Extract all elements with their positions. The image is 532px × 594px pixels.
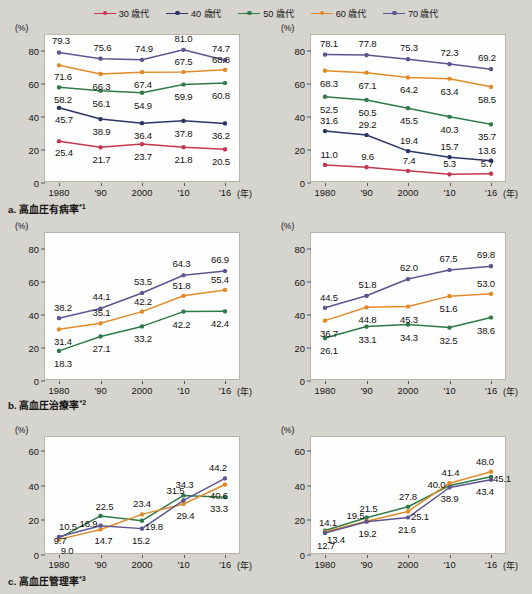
x-tickmark-c-right-2 bbox=[408, 555, 409, 558]
series-line-c-left-60歳代 bbox=[59, 485, 225, 540]
data-label-b-right: 51.6 bbox=[440, 303, 458, 314]
data-label-b-right: 26.1 bbox=[320, 345, 338, 356]
y-tick-a-right-20: 20 bbox=[283, 145, 305, 156]
series-point-a-left bbox=[223, 68, 227, 72]
data-label-a-right: 45.5 bbox=[400, 115, 418, 126]
series-point-b-right bbox=[323, 306, 327, 310]
series-point-a-right bbox=[323, 52, 327, 56]
series-point-c-left bbox=[140, 512, 144, 516]
x-tick-a-right-2: 2000 bbox=[398, 187, 419, 198]
legend-item-age50[interactable]: 50 歳代 bbox=[238, 6, 293, 20]
x-tickmark-a-left-3 bbox=[184, 183, 185, 186]
series-point-c-left bbox=[181, 502, 185, 506]
series-point-b-right bbox=[447, 294, 451, 298]
y-axis-unit-a-left: (%) bbox=[15, 23, 28, 33]
data-label-b-right: 67.5 bbox=[440, 253, 458, 264]
data-label-a-right: 15.7 bbox=[441, 141, 459, 152]
data-label-b-left: 66.9 bbox=[211, 253, 229, 264]
y-tick-a-left-0: 0 bbox=[17, 178, 39, 189]
x-tickmark-c-left-1 bbox=[101, 555, 102, 558]
series-point-a-left bbox=[181, 70, 185, 74]
legend-swatch-age40-icon bbox=[166, 9, 188, 18]
series-point-a-left bbox=[98, 57, 102, 61]
series-point-a-left bbox=[223, 147, 227, 151]
data-label-a-left: 23.7 bbox=[134, 151, 152, 162]
x-tick-a-left-0: 1980 bbox=[49, 187, 70, 198]
legend-item-age70[interactable]: 70 歳代 bbox=[383, 6, 438, 20]
caption-a-index: a. bbox=[8, 204, 16, 215]
y-tick-b-left-20: 20 bbox=[17, 343, 39, 354]
series-point-c-right bbox=[447, 485, 451, 489]
x-tickmark-b-left-0 bbox=[59, 381, 60, 384]
series-point-b-left bbox=[223, 309, 227, 313]
data-label-b-left: 51.8 bbox=[173, 279, 191, 290]
data-label-b-right: 44.8 bbox=[359, 314, 377, 325]
y-tick-b-left-60: 60 bbox=[17, 277, 39, 288]
data-label-a-left: 67.5 bbox=[175, 56, 193, 67]
x-tickmark-b-left-1 bbox=[101, 381, 102, 384]
x-tickmark-a-right-0 bbox=[325, 183, 326, 186]
series-point-c-left bbox=[223, 476, 227, 480]
x-tick-c-left-1: '90 bbox=[94, 559, 106, 570]
x-tick-c-right-4: '16 bbox=[485, 559, 497, 570]
data-label-a-left: 59.9 bbox=[175, 91, 193, 102]
data-label-c-left: 29.4 bbox=[177, 509, 195, 520]
data-label-a-left: 79.3 bbox=[52, 34, 70, 45]
series-point-c-left bbox=[140, 519, 144, 523]
data-label-c-right: 40.0 bbox=[428, 478, 446, 489]
x-tick-b-left-2: 2000 bbox=[132, 385, 153, 396]
x-tick-a-right-4: '16 bbox=[485, 187, 497, 198]
y-tick-a-left-60: 60 bbox=[17, 79, 39, 90]
series-point-a-right bbox=[364, 165, 368, 169]
legend-item-age30[interactable]: 30 歳代 bbox=[94, 6, 149, 20]
legend-item-age40[interactable]: 40 歳代 bbox=[166, 6, 221, 20]
caption-a-note: *1 bbox=[79, 202, 86, 211]
chart-cell-c-right: (%)60402001980'902000'10'16(年)12.719.221… bbox=[266, 422, 532, 594]
x-axis-unit-c-left: (年) bbox=[237, 559, 252, 572]
data-label-c-left: 19.8 bbox=[145, 520, 163, 531]
y-tick-c-left-0: 0 bbox=[17, 550, 39, 561]
data-label-c-right: 48.0 bbox=[476, 455, 494, 466]
data-label-a-left: 60.8 bbox=[212, 90, 230, 101]
data-label-b-right: 38.6 bbox=[477, 324, 495, 335]
data-label-b-left: 42.4 bbox=[211, 318, 229, 329]
x-tickmark-b-right-2 bbox=[408, 381, 409, 384]
data-label-c-left: 15.2 bbox=[132, 534, 150, 545]
series-point-b-left bbox=[57, 327, 61, 331]
data-label-a-left: 56.1 bbox=[93, 97, 111, 108]
data-label-a-left: 21.8 bbox=[175, 154, 193, 165]
data-label-b-left: 27.1 bbox=[93, 343, 111, 354]
x-tickmark-b-left-4 bbox=[225, 381, 226, 384]
series-point-b-left bbox=[57, 349, 61, 353]
data-label-b-right: 62.0 bbox=[400, 262, 418, 273]
y-axis-unit-b-left: (%) bbox=[15, 221, 28, 231]
x-tickmark-b-left-2 bbox=[142, 381, 143, 384]
data-label-a-left: 58.2 bbox=[54, 94, 72, 105]
series-point-a-right bbox=[489, 67, 493, 71]
series-point-a-left bbox=[181, 119, 185, 123]
x-tick-c-left-2: 2000 bbox=[132, 559, 153, 570]
data-label-b-right: 33.1 bbox=[359, 333, 377, 344]
legend-item-age60[interactable]: 60 歳代 bbox=[311, 6, 366, 20]
data-label-b-right: 51.8 bbox=[359, 278, 377, 289]
x-tickmark-c-right-1 bbox=[367, 555, 368, 558]
y-tick-b-right-40: 40 bbox=[283, 310, 305, 321]
x-tick-a-right-1: '90 bbox=[360, 187, 372, 198]
caption-c-text: 高血圧管理率 bbox=[19, 576, 79, 587]
y-tick-b-right-0: 0 bbox=[283, 376, 305, 387]
plot-area-c-left: (%)60402001980'902000'10'16(年)10.516.915… bbox=[44, 436, 240, 554]
figure-root: 30 歳代40 歳代50 歳代60 歳代70 歳代 (%)80604020019… bbox=[0, 0, 532, 594]
data-label-c-right: 19.2 bbox=[359, 527, 377, 538]
series-point-a-left bbox=[140, 58, 144, 62]
x-axis-unit-a-right: (年) bbox=[503, 187, 518, 200]
data-label-a-left: 38.9 bbox=[93, 126, 111, 137]
data-label-c-left: 14.7 bbox=[95, 535, 113, 546]
series-point-c-right bbox=[447, 481, 451, 485]
series-point-a-right bbox=[364, 133, 368, 137]
data-label-b-left: 38.2 bbox=[54, 302, 72, 313]
series-point-b-right bbox=[489, 292, 493, 296]
series-point-a-left bbox=[140, 142, 144, 146]
caption-b: b. 高血圧治療率*2 bbox=[8, 398, 86, 412]
series-point-a-right bbox=[406, 149, 410, 153]
plot-area-b-right: (%)8060402001980'902000'10'16(年)44.551.8… bbox=[310, 232, 506, 380]
